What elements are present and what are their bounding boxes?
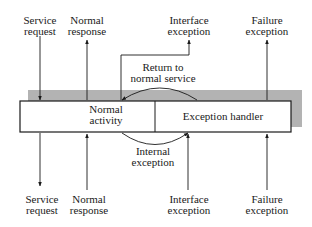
bottom-label-normal-response: Normal response [64,194,114,216]
top-label-service-request: Service request [20,15,60,37]
top-label-failure-exception: Failure exception [238,15,296,37]
internal-exception-arrow [122,133,188,145]
return-to-normal-label: Return to normal service [125,62,201,84]
normal-activity-label: Normal activity [56,104,156,126]
exception-handler-label: Exception handler [160,111,286,122]
top-label-interface-exception: Interface exception [160,15,218,37]
top-label-normal-response: Normal response [62,15,112,37]
diagram-canvas: Service request Normal response Interfac… [0,0,312,227]
bottom-label-interface-exception: Interface exception [160,194,218,216]
bottom-label-failure-exception: Failure exception [238,194,296,216]
internal-exception-label: Internal exception [120,146,186,168]
bottom-label-service-request: Service request [22,194,62,216]
